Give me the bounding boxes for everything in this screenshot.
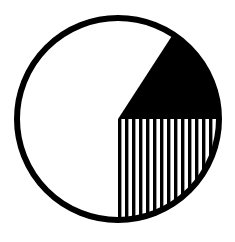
pie-chart-svg — [0, 0, 235, 242]
figure-root: Sectored circle diagram — [0, 0, 235, 242]
